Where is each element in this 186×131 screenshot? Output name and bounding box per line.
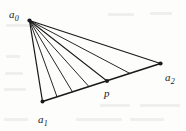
label-a2: a2 [165,68,175,86]
label-a0-base: a [9,8,15,20]
diagram-canvas [0,0,186,131]
label-a1: a1 [38,110,48,128]
label-a1-base: a [38,113,44,125]
label-a2-base: a [165,71,171,83]
ray-5 [30,21,131,74]
triangle-edges [30,21,161,102]
label-a2-subscript: 2 [171,77,175,86]
label-p: p [104,88,110,99]
label-a1-subscript: 1 [44,119,48,128]
vertex-dot-group [27,18,162,103]
vertex-dot-a1 [41,100,45,104]
fan-ray-group [30,21,131,97]
ray-4 [30,21,108,82]
label-a0: a0 [9,5,19,23]
vertex-dot-p [105,79,109,83]
label-a0-subscript: 0 [15,14,19,23]
vertex-dot-a0 [27,18,31,22]
geometry-figure: a0 a1 a2 p [0,0,186,131]
vertex-dot-a2 [158,61,162,65]
a1-a2 [43,64,161,102]
